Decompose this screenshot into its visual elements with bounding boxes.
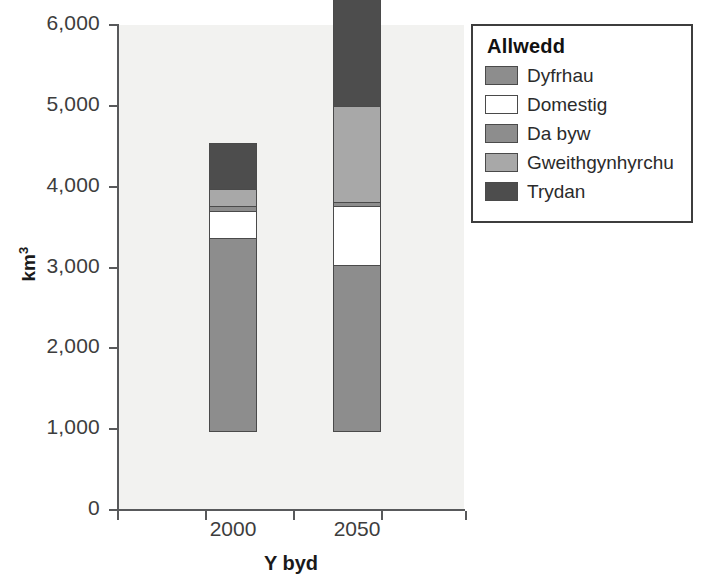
y-tick-label: 0 [0,496,100,520]
bar-stack [209,143,257,432]
x-tick-label: 2000 [163,517,303,541]
y-tick-label: 6,000 [0,11,100,35]
legend-items: DyfrhauDomestigDa bywGweithgynhyrchuTryd… [485,61,691,206]
legend-swatch-icon [485,153,518,172]
legend-item-label: Dyfrhau [527,65,594,87]
y-axis-title-exponent: 3 [16,247,31,254]
y-tick-mark [109,105,118,107]
y-tick-mark [109,267,118,269]
bar-segment-gweithgynhyrchu[interactable] [209,189,257,206]
bar-segment-domestig[interactable] [209,211,257,238]
legend-item-label: Domestig [527,94,607,116]
y-axis-title-text: km [18,254,39,281]
bar-segment-trydan[interactable] [333,0,381,106]
stacked-bar-2000[interactable] [209,0,257,510]
x-tick-mark [465,511,467,520]
bar-stack [333,0,381,432]
plot-area [118,25,464,510]
x-axis-line [117,509,465,511]
y-tick-label: 4,000 [0,173,100,197]
legend-item-label: Da byw [527,123,590,145]
y-tick-mark [109,428,118,430]
stacked-bar-2050[interactable] [333,0,381,510]
bar-segment-trydan[interactable] [209,143,257,189]
legend-item-label: Trydan [527,181,585,203]
bar-segment-dyfrhau[interactable] [209,238,257,432]
legend-item-dyfrhau[interactable]: Dyfrhau [485,61,691,90]
legend-item-trydan[interactable]: Trydan [485,177,691,206]
legend-swatch-icon [485,95,518,114]
legend-item-label: Gweithgynhyrchu [527,152,674,174]
y-tick-label: 1,000 [0,415,100,439]
x-tick-mark [117,511,119,520]
y-tick-label: 2,000 [0,334,100,358]
bar-segment-domestig[interactable] [333,206,381,265]
legend-item-da-byw[interactable]: Da byw [485,119,691,148]
x-tick-label: 2050 [287,517,427,541]
legend-title: Allwedd [487,35,691,58]
stacked-bar-chart: 6,0005,0004,0003,0002,0001,0000 20002050… [0,0,719,588]
bar-segment-dyfrhau[interactable] [333,265,381,432]
y-tick-mark [109,186,118,188]
legend-item-domestig[interactable]: Domestig [485,90,691,119]
legend-item-gweithgynhyrchu[interactable]: Gweithgynhyrchu [485,148,691,177]
legend-swatch-icon [485,124,518,143]
x-axis-title: Y byd [118,552,464,575]
y-tick-mark [109,24,118,26]
bar-segment-gweithgynhyrchu[interactable] [333,106,381,201]
y-axis-title: km3 [16,224,40,304]
y-tick-label: 5,000 [0,92,100,116]
legend-swatch-icon [485,182,518,201]
y-tick-mark [109,347,118,349]
legend-swatch-icon [485,66,518,85]
legend: Allwedd DyfrhauDomestigDa bywGweithgynhy… [471,24,693,223]
